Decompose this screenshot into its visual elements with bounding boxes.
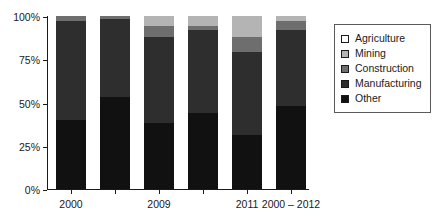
bar-segment-other[interactable] <box>144 123 174 189</box>
bar-segment-construction[interactable] <box>232 37 262 53</box>
bar[interactable] <box>276 16 306 189</box>
bar-segment-mining[interactable] <box>144 16 174 26</box>
legend-item[interactable]: Other <box>341 91 422 106</box>
bar-segment-manufacturing[interactable] <box>188 30 218 113</box>
x-tick-mark <box>159 190 160 194</box>
legend-label: Agriculture <box>355 33 405 44</box>
bar-segment-manufacturing[interactable] <box>56 21 86 120</box>
bar[interactable] <box>56 16 86 189</box>
bar[interactable] <box>100 16 130 189</box>
y-tick-mark <box>43 60 47 61</box>
bar-segment-construction[interactable] <box>100 16 130 19</box>
bar[interactable] <box>144 16 174 189</box>
x-axis-line <box>47 189 309 190</box>
legend: AgricultureMiningConstructionManufacturi… <box>334 24 431 113</box>
legend-swatch-icon <box>341 95 349 103</box>
legend-label: Manufacturing <box>355 78 422 89</box>
bar-segment-construction[interactable] <box>56 16 86 21</box>
legend-swatch-icon <box>341 50 349 58</box>
legend-swatch-icon <box>341 80 349 88</box>
legend-item[interactable]: Agriculture <box>341 31 422 46</box>
legend-label: Mining <box>355 48 386 59</box>
legend-swatch-icon <box>341 65 349 73</box>
bar-segment-construction[interactable] <box>144 26 174 36</box>
bar-segment-other[interactable] <box>232 135 262 189</box>
y-tick-mark <box>43 17 47 18</box>
legend-swatch-icon <box>341 35 349 43</box>
bar-segment-mining[interactable] <box>276 16 306 21</box>
stacked-bar-chart-figure: 0%25%50%75%100% 2000200920112000 – 2012 … <box>0 0 437 219</box>
bar-segment-mining[interactable] <box>232 16 262 37</box>
legend-item[interactable]: Mining <box>341 46 422 61</box>
bar-segment-manufacturing[interactable] <box>232 52 262 135</box>
bar-segment-mining[interactable] <box>188 16 218 26</box>
y-tick-label: 50% <box>19 98 40 109</box>
bar-segment-construction[interactable] <box>188 26 218 29</box>
bar-segment-other[interactable] <box>56 120 86 189</box>
legend-item[interactable]: Manufacturing <box>341 76 422 91</box>
x-tick-mark <box>203 190 204 194</box>
y-tick-mark <box>43 190 47 191</box>
y-tick-mark <box>43 104 47 105</box>
x-tick-mark <box>71 190 72 194</box>
legend-item[interactable]: Construction <box>341 61 422 76</box>
legend-label: Other <box>355 93 381 104</box>
x-tick-mark <box>291 190 292 194</box>
bar-segment-manufacturing[interactable] <box>100 19 130 97</box>
x-tick-label: 2000 <box>59 199 82 210</box>
y-tick-label: 0% <box>25 185 40 196</box>
y-tick-label: 25% <box>19 142 40 153</box>
bar-segment-construction[interactable] <box>276 21 306 30</box>
plot-area: 0%25%50%75%100% 2000200920112000 – 2012 <box>47 16 309 190</box>
legend-label: Construction <box>355 63 414 74</box>
y-tick-label: 75% <box>19 55 40 66</box>
x-tick-mark <box>247 190 248 194</box>
x-tick-label: 2011 <box>236 199 259 210</box>
x-tick-mark <box>115 190 116 194</box>
bar[interactable] <box>188 16 218 189</box>
bar[interactable] <box>232 16 262 189</box>
x-tick-label: 2009 <box>147 199 170 210</box>
bar-segment-manufacturing[interactable] <box>144 37 174 124</box>
bar-segment-other[interactable] <box>276 106 306 189</box>
y-axis-line <box>47 16 48 190</box>
x-tick-label: 2000 – 2012 <box>262 199 320 210</box>
bar-segment-other[interactable] <box>188 113 218 189</box>
bar-segment-manufacturing[interactable] <box>276 30 306 106</box>
bar-segment-other[interactable] <box>100 97 130 189</box>
y-tick-mark <box>43 147 47 148</box>
y-tick-label: 100% <box>13 12 40 23</box>
